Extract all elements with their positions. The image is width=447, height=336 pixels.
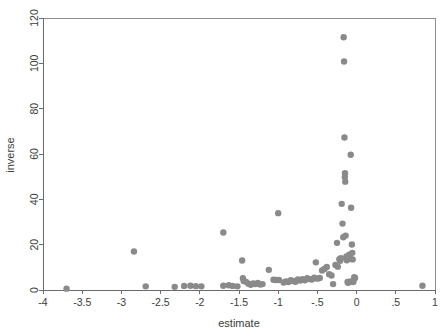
x-tick-label: 1	[432, 296, 438, 308]
x-tick-label: -3.5	[73, 296, 91, 308]
data-point	[275, 210, 281, 216]
data-point	[181, 283, 187, 289]
data-point	[348, 205, 354, 211]
plot-frame	[43, 18, 435, 290]
x-tick-label: -4	[38, 296, 47, 308]
data-point	[340, 34, 346, 40]
x-tick-label: -2.5	[152, 296, 170, 308]
data-point	[352, 275, 358, 281]
x-tick-label: .5	[391, 296, 400, 308]
data-point	[328, 272, 334, 278]
y-axis-title: inverse	[4, 137, 16, 172]
data-point	[172, 284, 178, 290]
data-point	[220, 229, 226, 235]
x-tick-label: -3	[117, 296, 126, 308]
data-point	[349, 256, 355, 262]
data-point	[330, 281, 336, 287]
data-point	[187, 282, 193, 288]
data-point	[342, 178, 348, 184]
data-point	[266, 267, 272, 273]
x-tick-label: 0	[354, 296, 360, 308]
x-tick-label: -2	[195, 296, 204, 308]
y-tick-label: 120	[28, 9, 40, 27]
data-point	[338, 255, 344, 261]
data-point	[193, 283, 199, 289]
scatter-plot: 020406080100120 -4-3.5-3-2.5-2-1.5-1-.50…	[0, 0, 447, 336]
data-point	[259, 281, 265, 287]
x-tick-label: -1	[274, 296, 283, 308]
data-point	[349, 241, 355, 247]
data-point	[324, 264, 330, 270]
data-point	[131, 248, 137, 254]
data-point	[342, 170, 348, 176]
y-tick-label: 0	[28, 287, 40, 293]
data-point	[348, 151, 354, 157]
y-tick-label: 80	[28, 103, 40, 115]
x-tick-label: -.5	[311, 296, 323, 308]
data-point	[239, 257, 245, 263]
data-point	[334, 240, 340, 246]
chart-page: 020406080100120 -4-3.5-3-2.5-2-1.5-1-.50…	[0, 0, 447, 336]
plot-frame-border	[43, 18, 435, 290]
data-point	[63, 285, 69, 291]
data-point	[317, 275, 323, 281]
data-point	[313, 259, 319, 265]
data-point	[342, 232, 348, 238]
data-point	[419, 282, 425, 288]
data-point	[143, 283, 149, 289]
data-point	[349, 250, 355, 256]
x-tick-label: -1.5	[230, 296, 248, 308]
y-axis: 020406080100120	[28, 9, 43, 293]
data-point	[341, 134, 347, 140]
data-point	[220, 282, 226, 288]
y-tick-label: 40	[28, 193, 40, 205]
x-axis-title: estimate	[218, 317, 260, 329]
y-tick-label: 20	[28, 239, 40, 251]
data-point	[335, 263, 341, 269]
data-point	[341, 58, 347, 64]
data-point	[198, 283, 204, 289]
x-axis: -4-3.5-3-2.5-2-1.5-1-.50.51	[38, 290, 438, 308]
data-point	[234, 283, 240, 289]
data-point	[339, 220, 345, 226]
data-points	[63, 34, 425, 292]
data-point	[339, 201, 345, 207]
y-tick-label: 60	[28, 148, 40, 160]
y-tick-label: 100	[28, 54, 40, 72]
